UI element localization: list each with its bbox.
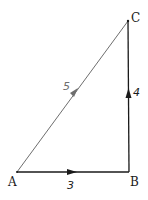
magnitude-label-ab: 3 [67,179,74,192]
label-a: A [7,175,17,189]
label-b: B [130,175,139,189]
vertex-a [16,171,18,173]
edge-a-c [17,21,128,172]
arrow-a-c-icon [70,88,78,97]
vector-triangle-diagram: A B C 5 4 3 [0,0,148,200]
magnitude-label-ac: 5 [63,80,70,93]
magnitude-label-bc: 4 [133,86,140,99]
arrow-a-b-icon [67,169,77,175]
label-c: C [131,11,140,25]
vertex-c [127,20,129,22]
arrow-b-c-icon [126,88,132,98]
